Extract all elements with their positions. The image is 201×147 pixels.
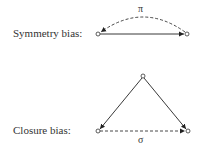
node (96, 32, 100, 36)
diagram-canvas (0, 0, 201, 147)
node (96, 129, 100, 133)
sigma-edge-label: σ (138, 134, 143, 145)
node (186, 129, 190, 133)
node (141, 74, 145, 78)
dashed-arc-edge (101, 17, 185, 32)
closure-diagram (96, 74, 190, 133)
node (185, 32, 189, 36)
pi-edge-label: π (138, 3, 143, 14)
solid-edge (144, 78, 186, 129)
symmetry-diagram (96, 17, 189, 36)
solid-edge (100, 78, 142, 129)
